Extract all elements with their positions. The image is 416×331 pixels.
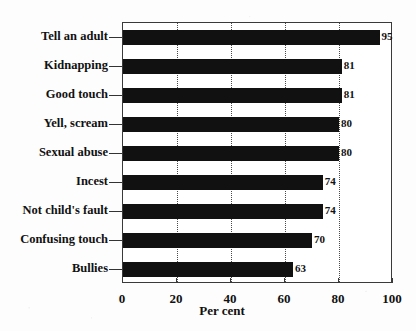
x-axis-label-text: Per cent (199, 303, 245, 319)
x-tick (122, 278, 123, 283)
bar-value-label: 70 (314, 232, 325, 247)
bar (123, 146, 339, 161)
category-leader-line (109, 95, 122, 96)
category-label: Incest (76, 174, 108, 189)
bar (123, 30, 380, 45)
category-label: Sexual abuse (39, 145, 108, 160)
bar (123, 88, 342, 103)
bar-value-label: 81 (344, 58, 355, 73)
category-leader-line (109, 182, 122, 183)
bar-value-label: 81 (344, 87, 355, 102)
x-tick (230, 278, 231, 283)
category-label: Kidnapping (44, 58, 108, 73)
category-label: Bullies (72, 261, 108, 276)
category-label: Good touch (46, 87, 108, 102)
category-leader-line (109, 124, 122, 125)
bar-value-label: 80 (341, 145, 352, 160)
bar (123, 204, 323, 219)
category-label: Not child's fault (23, 203, 108, 218)
chart-screenshot: Tell an adultKidnappingGood touchYell, s… (0, 0, 416, 331)
category-axis: Tell an adultKidnappingGood touchYell, s… (0, 22, 108, 283)
category-leader-line (109, 240, 122, 241)
bar (123, 175, 323, 190)
bar (123, 233, 312, 248)
x-tick (284, 278, 285, 283)
bar-value-label: 63 (295, 261, 306, 276)
category-leader-line (109, 269, 122, 270)
category-leader-line (109, 37, 122, 38)
bar (123, 117, 339, 132)
bar-value-label: 74 (325, 174, 336, 189)
category-label: Tell an adult (41, 29, 108, 44)
category-leader-line (109, 211, 122, 212)
bar-value-label: 80 (341, 116, 352, 131)
x-axis-label: Per cent (0, 303, 416, 319)
x-tick (176, 278, 177, 283)
bar (123, 59, 342, 74)
category-leader-line (109, 66, 122, 67)
category-label: Yell, scream (44, 116, 108, 131)
bar-value-label: 74 (325, 203, 336, 218)
category-label: Confusing touch (20, 232, 108, 247)
category-leader-line (109, 153, 122, 154)
x-tick (338, 278, 339, 283)
bar (123, 262, 293, 277)
x-tick (392, 278, 393, 283)
bar-value-label: 95 (382, 29, 393, 44)
